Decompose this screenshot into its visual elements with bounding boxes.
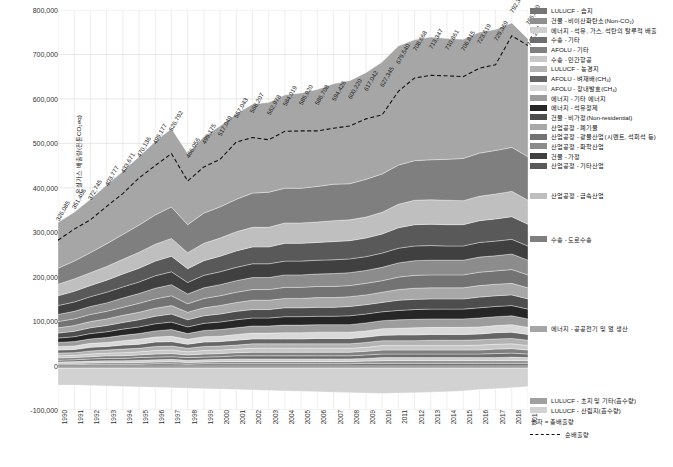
legend-item-road[interactable]: 수송 - 도로수송 [530, 234, 673, 244]
legend-metal-group: 산업공정 - 금속산업 [530, 191, 673, 201]
legend-swatch-icon [530, 153, 547, 159]
y-axis-tick: 100,000 [12, 318, 58, 325]
y-axis-tick: 600,000 [12, 95, 58, 102]
legend-item-label: AFOLU - 장내발효(CH₄) [551, 84, 617, 93]
legend-item-label: 에너지 - 기타 에너지 [551, 94, 606, 103]
x-axis: 1990199119921993199419951996199719981999… [58, 410, 528, 450]
legend-swatch-icon [530, 27, 547, 33]
legend-item-label: 산업공정 - 광물산업(시멘트, 석회석 등) [551, 132, 656, 141]
y-axis-tick: 400,000 [12, 184, 58, 191]
legend-item[interactable]: 에너지 - 석유, 가스, 석탄의 탈루적 배출 [530, 25, 673, 35]
legend-swatch-icon [530, 114, 547, 120]
legend-swatch-icon [530, 326, 547, 332]
x-axis-tick: 2003 [272, 410, 279, 424]
legend-item-label: 건물 - 가정 [551, 152, 581, 161]
x-axis-tick: 1996 [158, 410, 165, 424]
legend-item[interactable]: AFOLU - 장내발효(CH₄) [530, 84, 673, 94]
x-axis-tick: 2016 [482, 410, 489, 424]
legend-item-sink[interactable]: LULUCF - 산림지(흡수량) [530, 405, 673, 415]
legend-power-group: 에너지 - 공공전기 및 열 생산 [530, 324, 673, 334]
legend-swatch-icon [530, 143, 547, 149]
legend-item[interactable]: 수송 - 민간항공 [530, 54, 673, 64]
legend-item[interactable]: LULUCF - 농경지 [530, 64, 673, 74]
legend-item-label: LULUCF - 산림지(흡수량) [551, 406, 621, 415]
legend-item-label: 에너지 - 공공전기 및 열 생산 [551, 324, 628, 333]
y-axis-tick: 700,000 [12, 51, 58, 58]
legend-item-label: LULUCF - 습지 [551, 6, 593, 15]
dashed-line-icon [530, 434, 560, 435]
legend-item[interactable]: 산업공정 - 광물산업(시멘트, 석회석 등) [530, 132, 673, 142]
x-axis-tick: 1994 [126, 410, 133, 424]
x-axis-tick: 2005 [304, 410, 311, 424]
legend-swatch-icon [530, 8, 547, 14]
x-axis-tick: 2000 [223, 410, 230, 424]
x-axis-tick: 2008 [353, 410, 360, 424]
legend-item-label: 수송 - 민간항공 [551, 55, 593, 64]
legend-swatch-icon [530, 56, 547, 62]
y-axis-tick: 0 [12, 362, 58, 369]
x-axis-tick: 1991 [77, 410, 84, 424]
legend-item-label: LULUCF - 초지 및 기타(흡수량) [551, 396, 636, 405]
stacked-area-svg [58, 10, 528, 410]
legend-item-metal[interactable]: 산업공정 - 금속산업 [530, 191, 673, 201]
x-axis-tick: 1990 [61, 410, 68, 424]
x-axis-tick: 2004 [288, 410, 295, 424]
legend-item[interactable]: 건물 - 비가정(Non-residential) [530, 113, 673, 123]
x-axis-tick: 2017 [499, 410, 506, 424]
legend-swatch-icon [530, 66, 547, 72]
x-axis-tick: 1993 [110, 410, 117, 424]
x-axis-tick: 2006 [320, 410, 327, 424]
y-axis: 온실가스 배출량(천톤CO₂eq) 800,000700,000600,0005… [0, 0, 58, 467]
x-axis-tick: 2007 [337, 410, 344, 424]
x-axis-tick: 2011 [401, 410, 408, 424]
legend-item[interactable]: 건물 - 가정 [530, 151, 673, 161]
legend-item[interactable]: 산업공정 - 기타산업 [530, 161, 673, 171]
legend-item-sink[interactable]: LULUCF - 초지 및 기타(흡수량) [530, 396, 673, 406]
legend-item-label: 에너지 - 석유정제 [551, 103, 599, 112]
legend-net-note: 순배출량 [565, 430, 589, 439]
x-axis-tick: 1999 [207, 410, 214, 424]
legend-swatch-icon [530, 18, 547, 24]
legend-item[interactable]: 수송 - 기타 [530, 35, 673, 45]
legend-item[interactable]: 건물 - 비이산화탄소(Non-CO₂) [530, 16, 673, 26]
legend-item-label: AFOLU - 벼재배(CH₄) [551, 74, 611, 83]
legend-item-label: AFOLU - 기타 [551, 45, 589, 54]
x-axis-tick: 1998 [191, 410, 198, 424]
legend-item-label: 수송 - 도로수송 [551, 235, 593, 244]
legend-swatch-icon [530, 105, 547, 111]
legend-item[interactable]: LULUCF - 습지 [530, 6, 673, 16]
y-axis-tick: -100,000 [12, 407, 58, 414]
y-axis-tick: 500,000 [12, 140, 58, 147]
legend-swatch-icon [530, 95, 547, 101]
x-axis-tick: 1997 [174, 410, 181, 424]
legend-item-power[interactable]: 에너지 - 공공전기 및 열 생산 [530, 324, 673, 334]
legend-swatch-icon [530, 37, 547, 43]
legend-swatch-icon [530, 163, 547, 169]
legend-item-label: 수송 - 기타 [551, 35, 581, 44]
legend-item[interactable]: 산업공정 - 화학산업 [530, 142, 673, 152]
x-axis-tick: 2013 [434, 410, 441, 424]
legend-swatch-icon [530, 236, 547, 242]
x-axis-tick: 1995 [142, 410, 149, 424]
legend-number-note: 숫자 = 총배출량 [531, 417, 673, 426]
legend-swatch-icon [530, 47, 547, 53]
x-axis-tick: 1992 [93, 410, 100, 424]
legend-item-label: 산업공정 - 금속산업 [551, 191, 605, 200]
legend-sink-group: LULUCF - 초지 및 기타(흡수량)LULUCF - 산림지(흡수량) [530, 396, 673, 415]
legend-swatch-icon [530, 134, 547, 140]
legend-swatch-icon [530, 193, 547, 199]
legend-item[interactable]: 에너지 - 석유정제 [530, 103, 673, 113]
legend-item-label: 산업공정 - 폐기물 [551, 123, 599, 132]
legend-item[interactable]: 에너지 - 기타 에너지 [530, 93, 673, 103]
legend-item[interactable]: AFOLU - 기타 [530, 45, 673, 55]
legend-item[interactable]: AFOLU - 벼재배(CH₄) [530, 74, 673, 84]
x-axis-tick: 2018 [515, 410, 522, 424]
legend-item-label: 건물 - 비가정(Non-residential) [551, 113, 632, 122]
legend-main-group: LULUCF - 습지건물 - 비이산화탄소(Non-CO₂)에너지 - 석유,… [530, 6, 673, 171]
legend-item[interactable]: 산업공정 - 폐기물 [530, 122, 673, 132]
legend-road-group: 수송 - 도로수송 [530, 234, 673, 244]
legend-swatch-icon [530, 398, 547, 404]
y-axis-tick: 800,000 [12, 7, 58, 14]
legend-swatch-icon [530, 407, 547, 413]
legend-swatch-icon [530, 76, 547, 82]
